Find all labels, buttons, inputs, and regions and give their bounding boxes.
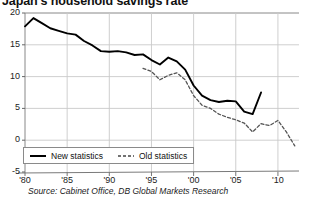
- x-axis-label: '85: [54, 175, 80, 185]
- x-axis-line: [18, 171, 299, 173]
- y-axis-label: 10: [0, 71, 20, 81]
- legend-item-old-statistics: Old statistics: [117, 151, 187, 161]
- y-axis-label: 15: [0, 39, 20, 49]
- source-note: Source: Cabinet Office, DB Global Market…: [28, 186, 228, 196]
- solid-line-swatch-icon: [29, 152, 47, 160]
- x-axis-label: '90: [96, 175, 122, 185]
- data-series: [25, 18, 295, 146]
- chart-container: Japan's household savings rate 20151050-…: [0, 0, 309, 201]
- x-axis-label: '80: [12, 175, 38, 185]
- y-axis-label: 5: [0, 102, 20, 112]
- x-axis-label: '05: [223, 175, 249, 185]
- legend-label-new-statistics: New statistics: [51, 151, 103, 161]
- x-axis-label: '10: [265, 175, 291, 185]
- series-line-new-statistics: [25, 18, 261, 114]
- plot-area: [0, 0, 309, 201]
- x-axis-label: '95: [138, 175, 164, 185]
- legend-item-new-statistics: New statistics: [29, 151, 103, 161]
- series-line-old-statistics: [143, 68, 295, 146]
- dashed-line-swatch-icon: [117, 152, 135, 160]
- legend-label-old-statistics: Old statistics: [139, 151, 187, 161]
- chart-legend: New statistics Old statistics: [23, 147, 194, 164]
- y-axis-label: 20: [0, 7, 20, 17]
- y-axis-label: 0: [0, 134, 20, 144]
- x-axis-label: '00: [181, 175, 207, 185]
